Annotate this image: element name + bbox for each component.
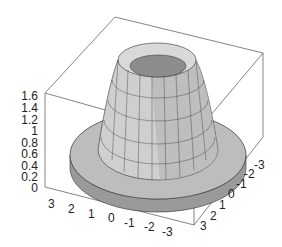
svg-text:2: 2 <box>210 209 217 223</box>
svg-text:2: 2 <box>68 202 75 216</box>
svg-text:3: 3 <box>48 197 55 211</box>
svg-text:0: 0 <box>228 187 235 201</box>
surface-plot: 1.6 1.4 1.2 1 0.8 0.6 0.4 0.2 0 3 2 1 0 … <box>0 0 282 247</box>
svg-text:-2: -2 <box>144 220 155 234</box>
svg-text:0: 0 <box>31 181 38 195</box>
svg-text:-3: -3 <box>162 225 173 239</box>
svg-text:3: 3 <box>200 219 207 233</box>
svg-text:0: 0 <box>108 211 115 225</box>
svg-text:-3: -3 <box>254 158 265 172</box>
z-axis: 1.6 1.4 1.2 1 0.8 0.6 0.4 0.2 0 <box>21 89 38 195</box>
surface <box>70 43 246 212</box>
svg-text:1: 1 <box>88 207 95 221</box>
svg-text:-1: -1 <box>124 216 135 230</box>
svg-text:1: 1 <box>219 198 226 212</box>
